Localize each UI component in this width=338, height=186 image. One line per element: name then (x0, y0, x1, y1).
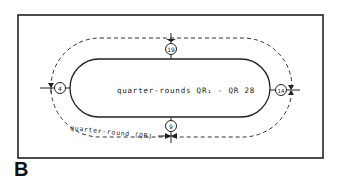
marker-top-label: 19 (167, 46, 175, 53)
marker-top: 19 (166, 33, 177, 59)
marker-bottom: 9 (158, 117, 177, 143)
marker-left: 4 (40, 83, 70, 94)
arrow-icon (166, 39, 171, 42)
arrow-icon (288, 90, 294, 95)
quarter-round-path-label: quarter-round (QR) (70, 124, 153, 141)
arrow-icon (171, 133, 177, 139)
figure-label: B (14, 159, 28, 179)
track-diagram: 19 9 4 14 quarter-rounds QR₁ - QR 28 qua… (0, 0, 338, 186)
marker-bottom-label: 9 (169, 123, 173, 130)
arrow-icon (165, 133, 171, 139)
center-label: quarter-rounds QR₁ - QR 28 (117, 86, 255, 95)
arrow-icon (288, 85, 294, 90)
marker-left-label: 4 (58, 85, 62, 92)
arrow-icon (48, 83, 54, 88)
arrow-icon (171, 39, 176, 42)
marker-right-label: 14 (278, 88, 285, 94)
marker-right: 14 (270, 85, 300, 96)
